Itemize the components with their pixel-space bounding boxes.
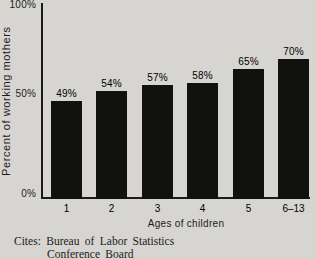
bar-value-label: 58%: [179, 70, 226, 81]
citation-line-2: Conference Board: [47, 248, 133, 259]
x-tick-label: 1: [43, 203, 90, 214]
x-tick-label: 2: [88, 203, 135, 214]
bar-value-label: 49%: [43, 88, 90, 99]
bar-age-5: [233, 69, 264, 199]
x-tick-label: 3: [134, 203, 181, 214]
bar-value-label: 57%: [134, 72, 181, 83]
bar-age-4: [187, 83, 218, 199]
bar-value-label: 54%: [88, 78, 135, 89]
bar-age-6–13: [278, 59, 309, 199]
x-tick-label: 5: [225, 203, 272, 214]
bar-value-label: 65%: [225, 56, 272, 67]
bar-value-label: 70%: [270, 46, 316, 57]
citation-line-1: Cites: Bureau of Labor Statistics: [14, 235, 174, 247]
bar-age-2: [96, 91, 127, 199]
x-tick-label: 6–13: [270, 203, 316, 214]
chart: Percent of working mothers 100% 50% 0% 4…: [0, 0, 316, 259]
bar-age-1: [51, 101, 82, 199]
bar-age-3: [142, 85, 173, 199]
x-axis-title: Ages of children: [111, 218, 261, 229]
x-tick-label: 4: [179, 203, 226, 214]
